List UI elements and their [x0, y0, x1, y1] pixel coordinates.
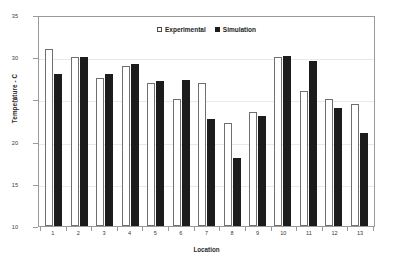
- y-axis-tick-mark: [33, 227, 38, 228]
- bar-experimental-11: [300, 91, 308, 226]
- bar-simulation-2: [80, 57, 88, 226]
- plot-area: [38, 16, 375, 227]
- bar-experimental-12: [325, 99, 333, 226]
- bar-experimental-2: [71, 57, 79, 226]
- y-axis-tick-label: 20: [0, 140, 18, 146]
- bar-simulation-13: [360, 133, 368, 226]
- bar-experimental-10: [274, 57, 282, 226]
- legend-swatch-open-square-icon: [157, 27, 163, 33]
- x-axis-tick-label: 7: [194, 230, 220, 242]
- y-axis-tick-label: 10: [0, 224, 18, 230]
- bar-group: [92, 17, 117, 226]
- bar-simulation-1: [54, 74, 62, 226]
- x-axis-tick-label: 2: [66, 230, 92, 242]
- bar-group: [194, 17, 219, 226]
- bar-group: [168, 17, 193, 226]
- bar-experimental-4: [122, 66, 130, 226]
- x-axis-tick-label: 11: [296, 230, 322, 242]
- chart-legend: Experimental Simulation: [38, 26, 375, 33]
- bar-simulation-3: [105, 74, 113, 226]
- bar-group: [143, 17, 168, 226]
- plot-inner: [39, 17, 374, 226]
- x-axis-tick-label: 3: [91, 230, 117, 242]
- legend-swatch-filled-square-icon: [215, 27, 221, 33]
- y-axis-tick-label: 15: [0, 182, 18, 188]
- bar-simulation-11: [309, 61, 317, 226]
- bar-experimental-8: [224, 123, 232, 226]
- bar-simulation-9: [258, 116, 266, 226]
- bar-group: [41, 17, 66, 226]
- x-axis-tick-label: 12: [322, 230, 348, 242]
- legend-item-experimental: Experimental: [157, 26, 206, 33]
- bar-group: [66, 17, 91, 226]
- bar-simulation-4: [131, 64, 139, 226]
- legend-item-simulation: Simulation: [215, 26, 256, 33]
- legend-label-simulation: Simulation: [223, 26, 256, 33]
- legend-label-experimental: Experimental: [165, 26, 206, 33]
- bar-group: [270, 17, 295, 226]
- x-axis-tick-label: 10: [270, 230, 296, 242]
- bar-simulation-5: [156, 81, 164, 226]
- bar-simulation-8: [233, 158, 241, 226]
- bar-experimental-7: [198, 83, 206, 226]
- x-axis-tick-label: 8: [219, 230, 245, 242]
- bar-experimental-9: [249, 112, 257, 226]
- x-axis-tick-label: 1: [40, 230, 66, 242]
- bar-experimental-13: [351, 104, 359, 226]
- x-axis-tick-label: 6: [168, 230, 194, 242]
- bar-experimental-5: [147, 83, 155, 226]
- bar-group: [296, 17, 321, 226]
- bar-group: [117, 17, 142, 226]
- y-axis-tick-label: 25: [0, 97, 18, 103]
- bar-group: [321, 17, 346, 226]
- y-axis-tick-label: 30: [0, 55, 18, 61]
- bar-chart: Temperature - C 101520253035 Experimenta…: [0, 0, 397, 273]
- bar-simulation-7: [207, 119, 215, 226]
- bar-simulation-10: [283, 56, 291, 226]
- bar-experimental-3: [96, 78, 104, 226]
- bar-group: [245, 17, 270, 226]
- bar-experimental-6: [173, 99, 181, 226]
- x-axis-tick-label: 13: [347, 230, 373, 242]
- x-axis-title: Location: [38, 246, 375, 253]
- bar-group: [219, 17, 244, 226]
- x-axis-tick-label: 4: [117, 230, 143, 242]
- x-axis-tick-label: 5: [142, 230, 168, 242]
- bar-simulation-12: [334, 108, 342, 226]
- x-axis-tick-labels: 12345678910111213: [38, 230, 375, 242]
- bar-simulation-6: [182, 80, 190, 226]
- y-axis-tick-label: 35: [0, 13, 18, 19]
- x-axis-tick-label: 9: [245, 230, 271, 242]
- bar-groups: [39, 17, 374, 226]
- bar-group: [347, 17, 372, 226]
- bar-experimental-1: [45, 49, 53, 226]
